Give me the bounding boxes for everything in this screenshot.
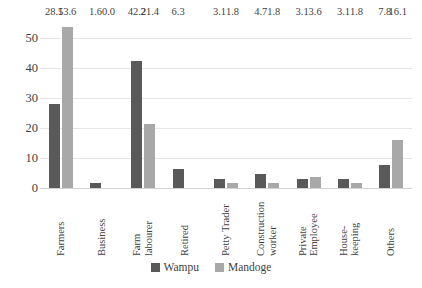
bar-slot: 1.8 — [227, 18, 238, 188]
bar-slot: 1.8 — [268, 18, 279, 188]
x-axis-label-cell: House-keeping — [329, 190, 370, 258]
bar-value-label: 16.1 — [389, 7, 407, 18]
bar-value-label: 1.6 — [89, 7, 102, 18]
x-axis-label: Employee — [309, 192, 320, 256]
bar-value-label: 6.3 — [172, 7, 185, 18]
x-axis-label: Construction — [256, 192, 267, 256]
bar-slot: 6.3 — [173, 18, 184, 188]
x-axis-label: Retired — [179, 192, 190, 256]
x-axis-label: Farm — [132, 192, 143, 256]
bar[interactable]: 7.8 — [379, 165, 390, 188]
bar[interactable]: 3.6 — [310, 177, 321, 188]
bar-group: 3.13.6 — [288, 18, 329, 188]
bar[interactable]: 3.1 — [297, 179, 308, 188]
bar-slot: 21.4 — [144, 18, 155, 188]
legend-swatch-icon — [215, 263, 224, 272]
y-tick-label: 20 — [4, 122, 38, 135]
bar-value-label: 1.8 — [267, 7, 280, 18]
y-tick-label: 10 — [4, 152, 38, 165]
x-axis-label: House- — [339, 192, 350, 256]
bar-value-label: 3.6 — [309, 7, 322, 18]
bar-slot: 3.1 — [338, 18, 349, 188]
bar-slot: 28.1 — [49, 18, 60, 188]
bar-group: 1.60.0 — [81, 18, 122, 188]
bar-value-label: 1.8 — [226, 7, 239, 18]
bar-slot: 3.6 — [310, 18, 321, 188]
x-axis-label-cell: Retired — [164, 190, 205, 258]
bar[interactable]: 1.8 — [227, 183, 238, 188]
bar-group: 7.816.1 — [371, 18, 412, 188]
x-axis-label-cell: Constructionworker — [247, 190, 288, 258]
bar-group: 3.11.8 — [205, 18, 246, 188]
y-tick-label: 30 — [4, 92, 38, 105]
bar-value-label: 21.4 — [141, 7, 159, 18]
x-axis-label: Petty Trader — [221, 192, 232, 256]
x-axis-label: Farmers — [55, 192, 66, 256]
bar[interactable]: 53.6 — [62, 27, 73, 188]
x-axis-label-cell: Farmlabourer — [123, 190, 164, 258]
bar-slot: 1.6 — [90, 18, 101, 188]
bar-slot: 16.1 — [392, 18, 403, 188]
x-axis-label: Business — [97, 192, 108, 256]
bar[interactable]: 1.8 — [268, 183, 279, 188]
bar-group: 42.221.4 — [123, 18, 164, 188]
bar-groups: 28.153.61.60.042.221.46.33.11.84.71.83.1… — [40, 18, 412, 188]
bar-slot: 3.1 — [297, 18, 308, 188]
x-axis-label-cell: Petty Trader — [205, 190, 246, 258]
bar-value-label: 0.0 — [102, 7, 115, 18]
bar-slot: 0.0 — [103, 18, 114, 188]
bar-value-label: 53.6 — [58, 7, 76, 18]
legend-item-wampu[interactable]: Wampu — [151, 262, 199, 274]
x-axis-label-cell: Business — [81, 190, 122, 258]
y-tick-label: 40 — [4, 62, 38, 75]
bar[interactable]: 3.1 — [338, 179, 349, 188]
bar-value-label: 4.7 — [254, 7, 267, 18]
bar-slot: 53.6 — [62, 18, 73, 188]
bar-value-label: 3.1 — [213, 7, 226, 18]
bar[interactable]: 1.8 — [351, 183, 362, 188]
y-tick-label: 50 — [4, 32, 38, 45]
x-axis-label: worker — [268, 192, 279, 256]
legend-item-label: Wampu — [164, 262, 199, 274]
bar[interactable]: 28.1 — [49, 104, 60, 188]
bar[interactable]: 1.6 — [90, 183, 101, 188]
bar-chart: 50 40 30 20 10 0 28.153.61.60.042.221.46… — [0, 0, 422, 288]
bar-group: 3.11.8 — [329, 18, 370, 188]
bar-slot: 3.1 — [214, 18, 225, 188]
x-axis-label-cell: Others — [371, 190, 412, 258]
bar-group: 6.3 — [164, 18, 205, 188]
bar[interactable]: 42.2 — [131, 61, 142, 188]
bar[interactable]: 3.1 — [214, 179, 225, 188]
x-axis-label: keeping — [350, 192, 361, 256]
bar-slot: 4.7 — [255, 18, 266, 188]
bar-group: 4.71.8 — [247, 18, 288, 188]
bar-slot: 7.8 — [379, 18, 390, 188]
x-axis-label-cell: PrivateEmployee — [288, 190, 329, 258]
legend-item-mandoge[interactable]: Mandoge — [215, 262, 271, 274]
bar-value-label: 3.1 — [337, 7, 350, 18]
chart-legend: Wampu Mandoge — [0, 262, 422, 274]
bar[interactable]: 6.3 — [173, 169, 184, 188]
bar-group: 28.153.6 — [40, 18, 81, 188]
x-axis-label-cell: Farmers — [40, 190, 81, 258]
bar-slot: 42.2 — [131, 18, 142, 188]
y-axis: 50 40 30 20 10 0 — [0, 18, 38, 188]
x-axis-label: Private — [298, 192, 309, 256]
bar[interactable]: 16.1 — [392, 140, 403, 188]
bar-slot: 1.8 — [351, 18, 362, 188]
legend-item-label: Mandoge — [228, 262, 271, 274]
bar[interactable]: 21.4 — [144, 124, 155, 188]
bar-value-label: 3.1 — [296, 7, 309, 18]
x-axis-label: Others — [386, 192, 397, 256]
legend-swatch-icon — [151, 263, 160, 272]
x-axis-label: labourer — [144, 192, 155, 256]
axis-baseline — [40, 188, 412, 189]
x-axis-category-labels: FarmersBusinessFarmlabourerRetiredPetty … — [40, 190, 412, 258]
y-tick-label: 0 — [4, 182, 38, 195]
bar-value-label: 1.8 — [350, 7, 363, 18]
bar[interactable]: 4.7 — [255, 174, 266, 188]
